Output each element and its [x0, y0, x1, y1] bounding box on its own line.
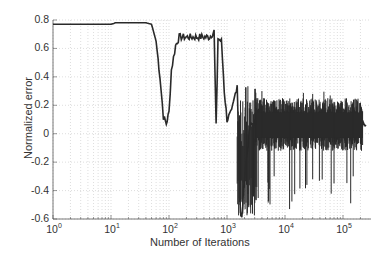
y-tick-label: 0.8 [19, 13, 49, 25]
x-tick-label: 103 [213, 222, 243, 235]
x-axis-title: Number of Iterations [150, 236, 250, 248]
y-tick-label: -0.2 [19, 155, 49, 167]
plot-area [0, 0, 389, 260]
y-tick-label: 0.2 [19, 98, 49, 110]
y-tick-label: -0.4 [19, 184, 49, 196]
series-noise-band [255, 92, 363, 205]
x-tick-label: 105 [329, 222, 359, 235]
x-tick-label: 101 [97, 222, 127, 235]
chart-container: Normalized error Number of Iterations 0.… [0, 0, 389, 260]
x-tick-label: 104 [271, 222, 301, 235]
y-tick-label: 0.4 [19, 70, 49, 82]
y-tick-label: 0 [19, 127, 49, 139]
series-noise-core [257, 112, 363, 138]
x-tick-label: 100 [39, 222, 69, 235]
x-tick-label: 102 [155, 222, 185, 235]
y-tick-label: 0.6 [19, 41, 49, 53]
series-noise-transition [237, 86, 256, 216]
